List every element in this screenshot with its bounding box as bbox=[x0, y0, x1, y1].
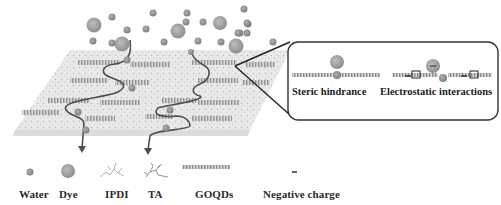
electrostatic-interactions-label: Electrostatic interactions bbox=[380, 86, 492, 97]
arrow-down-icon bbox=[78, 146, 86, 153]
inset-box bbox=[288, 42, 498, 120]
membrane-sheet bbox=[13, 50, 290, 136]
legend-label-goqds: GOQDs bbox=[195, 188, 233, 200]
steric-hindrance-label: Steric hindrance bbox=[292, 86, 366, 97]
arrow-down-icon bbox=[144, 148, 152, 155]
diagram-canvas bbox=[0, 0, 501, 205]
legend-icons bbox=[27, 163, 298, 178]
feed-particles bbox=[87, 6, 277, 54]
legend-label-water: Water bbox=[19, 188, 49, 200]
dye-legend-icon bbox=[61, 164, 75, 178]
membrane-separation-diagram: Steric hindrance Electrostatic interacti… bbox=[0, 0, 501, 205]
legend-label-dye: Dye bbox=[59, 188, 78, 200]
water-molecule bbox=[167, 107, 174, 114]
legend-label-negative-charge: Negative charge bbox=[263, 188, 340, 200]
legend-label-ipdi: IPDI bbox=[105, 188, 129, 200]
ta-legend-icon bbox=[144, 163, 168, 177]
water-molecule bbox=[124, 57, 131, 64]
goqds-legend-icon bbox=[182, 165, 230, 169]
water-molecule bbox=[163, 125, 170, 132]
water-legend-icon bbox=[27, 169, 34, 176]
water-molecule bbox=[129, 85, 136, 92]
water-molecule bbox=[188, 49, 194, 55]
water-molecule bbox=[83, 127, 90, 134]
water-molecule bbox=[75, 109, 82, 116]
legend-label-ta: TA bbox=[148, 188, 163, 200]
ipdi-legend-icon bbox=[100, 163, 124, 177]
